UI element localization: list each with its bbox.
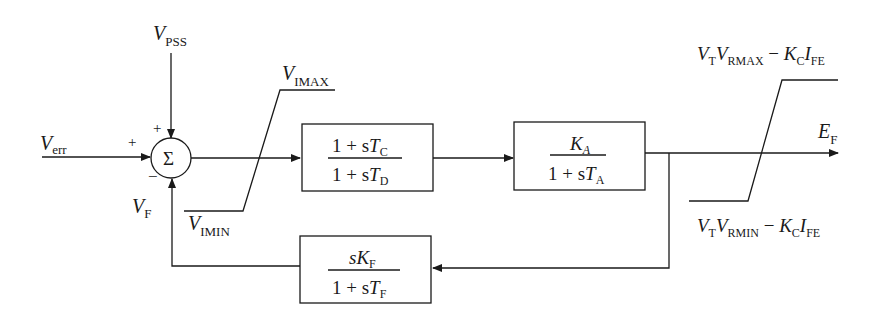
svg-text:1 + sTF: 1 + sTF (332, 277, 387, 301)
v-pss-label: VPSS (153, 22, 187, 49)
v-err-sign: + (128, 134, 136, 150)
v-f-sign: − (148, 167, 158, 186)
v-err-label: Verr (40, 132, 67, 157)
output-limiter (689, 80, 838, 201)
v-imax-label: VIMAX (282, 62, 329, 89)
output-limit-min-label: VTVRMIN − KCIFE (697, 215, 820, 240)
svg-text:EF: EF (817, 120, 837, 147)
svg-text:1 + sTC: 1 + sTC (332, 135, 388, 159)
svg-text:VF: VF (132, 195, 151, 221)
v-imin-label: VIMIN (188, 212, 230, 239)
e-f-output-label: EF (817, 120, 837, 147)
v-pss-sign: + (153, 120, 161, 136)
svg-text:VTVRMAX − KCIFE: VTVRMAX − KCIFE (697, 43, 825, 68)
svg-text:VIMAX: VIMAX (282, 62, 329, 89)
excitation-block-diagram: Verr + VPSS + Σ − VF VIMAX VIMIN 1 + sTC… (0, 0, 879, 323)
v-f-label: VF (132, 195, 151, 221)
svg-text:Verr: Verr (40, 132, 67, 157)
output-limit-max-label: VTVRMAX − KCIFE (697, 43, 825, 68)
sigma-symbol: Σ (163, 148, 174, 169)
svg-text:VPSS: VPSS (153, 22, 187, 49)
svg-text:VIMIN: VIMIN (188, 212, 230, 239)
svg-text:VTVRMIN − KCIFE: VTVRMIN − KCIFE (697, 215, 820, 240)
